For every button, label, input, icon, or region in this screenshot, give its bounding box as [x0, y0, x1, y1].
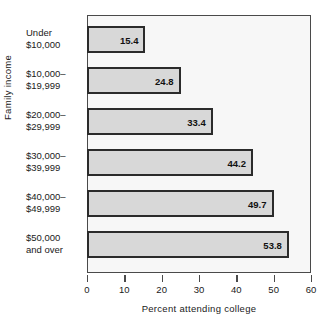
y-axis-tick-label: $30,000–$39,999	[26, 150, 84, 173]
y-axis-tick-label-line: $10,000	[26, 39, 84, 51]
bar: 15.4	[87, 26, 145, 53]
x-axis-tick-label: 0	[72, 284, 102, 295]
bar-value-label: 49.7	[248, 198, 267, 209]
x-axis-tick-label: 60	[296, 284, 326, 295]
bar: 44.2	[87, 149, 253, 176]
y-axis-tick-label-line: $19,999	[26, 80, 84, 92]
y-axis-tick-label-line: $20,000–	[26, 109, 84, 121]
y-axis-tick-label-line: $10,000–	[26, 68, 84, 80]
y-axis-tick-label-line: Under	[26, 27, 84, 39]
y-axis-tick-label: $20,000–$29,999	[26, 109, 84, 132]
y-axis-tick-label: $40,000–$49,999	[26, 191, 84, 214]
bar: 24.8	[87, 67, 181, 94]
y-axis-tick-label: $10,000–$19,999	[26, 68, 84, 91]
bar-chart-figure: Family income Under$10,000$10,000–$19,99…	[0, 0, 329, 335]
y-axis-tick-label-line: $49,999	[26, 203, 84, 215]
x-axis-tick-label: 40	[221, 284, 251, 295]
bar-value-label: 24.8	[155, 75, 174, 86]
x-axis-tick-mark	[124, 275, 125, 282]
x-axis-tick-mark	[311, 275, 312, 282]
x-axis-tick-mark	[199, 275, 200, 282]
bar-value-label: 15.4	[120, 34, 139, 45]
y-axis-tick-label-line: $29,999	[26, 121, 84, 133]
x-axis-tick-mark	[162, 275, 163, 282]
bar-value-label: 53.8	[263, 239, 282, 250]
y-axis-tick-label: Under$10,000	[26, 27, 84, 50]
y-axis-tick-label-line: $30,000–	[26, 150, 84, 162]
y-axis-title: Family income	[2, 0, 13, 120]
y-axis-tick-label-line: $50,000	[26, 232, 84, 244]
bar-value-label: 33.4	[187, 116, 206, 127]
x-axis-tick-label: 30	[184, 284, 214, 295]
y-axis-tick-label-line: $40,000–	[26, 191, 84, 203]
x-axis-tick-mark	[87, 275, 88, 282]
x-axis-title: Percent attending college	[87, 303, 311, 314]
x-axis-tick-mark	[274, 275, 275, 282]
bar: 33.4	[87, 108, 213, 135]
bar: 49.7	[87, 190, 274, 217]
x-axis-tick-label: 50	[259, 284, 289, 295]
y-axis-tick-label: $50,000and over	[26, 232, 84, 255]
bar: 53.8	[87, 231, 289, 258]
plot-area: 15.424.833.444.249.753.8	[87, 15, 311, 273]
x-axis-tick-mark	[236, 275, 237, 282]
x-axis-tick-label: 20	[147, 284, 177, 295]
bar-value-label: 44.2	[228, 157, 247, 168]
y-axis-tick-label-line: $39,999	[26, 162, 84, 174]
x-axis-tick-label: 10	[109, 284, 139, 295]
y-axis-tick-label-line: and over	[26, 244, 84, 256]
